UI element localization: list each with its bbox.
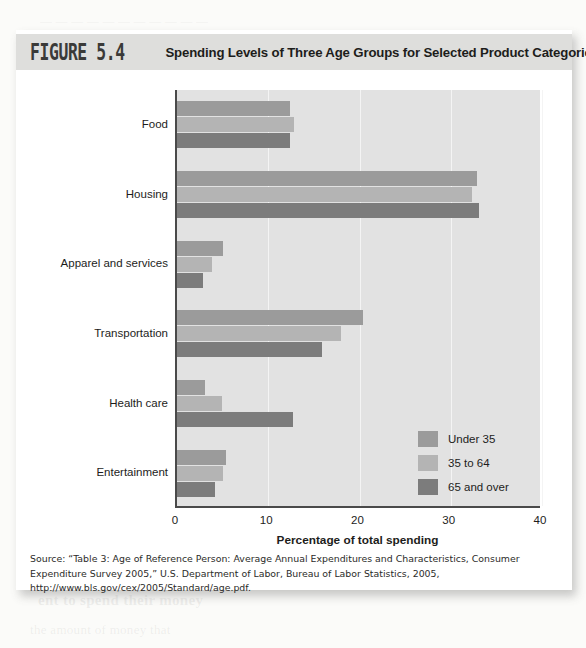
x-tick-label: 0 [172, 514, 178, 526]
figure-header: FIGURE 5.4 Spending Levels of Three Age … [16, 34, 572, 70]
bar [177, 187, 472, 202]
chart: FoodHousingApparel and servicesTransport… [16, 78, 572, 548]
bar [177, 342, 322, 357]
x-tick-label: 40 [534, 514, 547, 526]
bar [177, 241, 223, 256]
bar [177, 482, 215, 497]
bar [177, 412, 293, 427]
bar [177, 466, 223, 481]
legend: Under 3535 to 6465 and over [418, 427, 509, 499]
figure-title: Spending Levels of Three Age Groups for … [165, 45, 586, 60]
bar [177, 450, 226, 465]
source-note: Source: “Table 3: Age of Reference Perso… [30, 552, 560, 596]
gridline [542, 90, 543, 506]
figure-number: FIGURE 5.4 [30, 39, 125, 66]
x-axis-title: Percentage of total spending [175, 533, 540, 547]
legend-label: Under 35 [448, 433, 495, 445]
x-tick-label: 20 [351, 514, 364, 526]
bar [177, 171, 477, 186]
category-axis: FoodHousingApparel and servicesTransport… [16, 90, 168, 508]
category-label: Transportation [18, 327, 168, 339]
category-label: Health care [18, 397, 168, 409]
bar-group [177, 310, 540, 357]
figure-card: FIGURE 5.4 Spending Levels of Three Age … [16, 30, 572, 590]
legend-label: 35 to 64 [448, 457, 490, 469]
bar [177, 203, 479, 218]
x-tick-label: 10 [260, 514, 273, 526]
legend-swatch [418, 431, 438, 447]
bar [177, 396, 222, 411]
category-label: Apparel and services [18, 257, 168, 269]
legend-item: Under 35 [418, 427, 509, 451]
page-bleed-line-2: the amount of money that [30, 622, 171, 638]
bar [177, 380, 205, 395]
legend-item: 65 and over [418, 475, 509, 499]
bar-group [177, 380, 540, 427]
bar-group [177, 101, 540, 148]
bar-group [177, 241, 540, 288]
gridline [268, 90, 269, 506]
x-tick-label: 30 [442, 514, 455, 526]
bar-group [177, 171, 540, 218]
bar [177, 117, 294, 132]
legend-item: 35 to 64 [418, 451, 509, 475]
bar [177, 101, 290, 116]
category-label: Food [18, 118, 168, 130]
bar [177, 273, 203, 288]
bar [177, 257, 212, 272]
page-bleed-top: — — — — — — — — — — — [40, 14, 208, 29]
bar [177, 133, 290, 148]
legend-swatch [418, 479, 438, 495]
bar [177, 310, 363, 325]
category-label: Housing [18, 188, 168, 200]
bar [177, 326, 341, 341]
legend-swatch [418, 455, 438, 471]
gridline [360, 90, 361, 506]
legend-label: 65 and over [448, 481, 509, 493]
category-label: Entertainment [18, 466, 168, 478]
